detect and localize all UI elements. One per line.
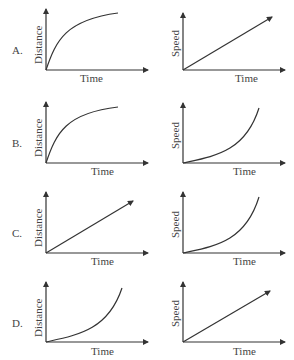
option-c-distance-graph (46, 192, 148, 253)
option-c-speed-xlabel: Time (233, 255, 256, 267)
option-label-c: C. (12, 227, 22, 239)
option-d-distance-ylabel: Distance (32, 298, 44, 337)
option-d-distance-xlabel: Time (91, 345, 114, 357)
option-c-speed-graph (183, 192, 285, 253)
option-a-distance-xlabel: Time (80, 72, 103, 84)
option-a-distance-ylabel: Distance (32, 25, 44, 64)
option-d-speed-graph (183, 282, 285, 342)
option-b-distance-ylabel: Distance (32, 118, 44, 157)
option-d-speed-ylabel: Speed (169, 300, 181, 327)
option-c-distance-ylabel: Distance (32, 208, 44, 247)
option-a-distance-graph (46, 9, 148, 70)
option-a-speed-graph (183, 13, 285, 70)
option-b-speed-xlabel: Time (233, 165, 256, 177)
option-label-d: D. (12, 317, 23, 329)
option-a-speed-ylabel: Speed (169, 30, 181, 57)
option-d-distance-graph (46, 282, 148, 342)
option-b-distance-xlabel: Time (91, 165, 114, 177)
option-c-distance-xlabel: Time (91, 255, 114, 267)
option-b-speed-graph (183, 103, 285, 163)
option-label-a: A. (12, 44, 23, 56)
option-b-speed-ylabel: Speed (169, 122, 181, 149)
option-d-speed-xlabel: Time (233, 345, 256, 357)
option-b-distance-graph (46, 102, 148, 163)
option-a-speed-xlabel: Time (235, 72, 258, 84)
option-label-b: B. (12, 137, 22, 149)
graph-options-figure: A. B. C. D. Distance Time Speed Time Dis… (0, 0, 294, 360)
option-c-speed-ylabel: Speed (169, 211, 181, 238)
